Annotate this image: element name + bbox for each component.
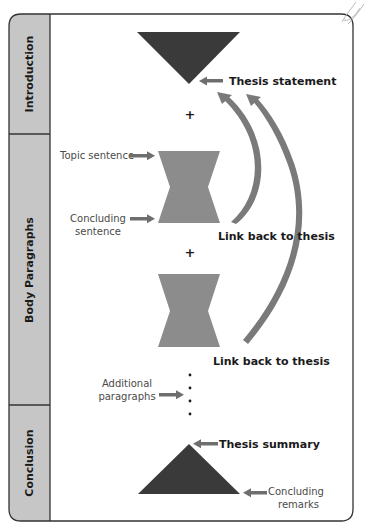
section-label-body-paragraphs: Body Paragraphs	[23, 217, 36, 323]
plus-sign-intro-body: +	[185, 107, 196, 122]
concluding-sentence-label-line2: sentence	[75, 226, 121, 237]
arrow-shaft	[249, 491, 267, 495]
introduction-inverted-triangle	[137, 32, 240, 84]
link-back-curve-1	[217, 92, 261, 224]
link-back-label-1: Link back to thesis	[218, 230, 335, 243]
arrow-shaft	[159, 393, 178, 397]
arrow-shaft	[205, 79, 223, 83]
body-paragraph-1-hourglass	[158, 151, 220, 223]
concluding-sentence-label-line1: Concluding	[70, 213, 126, 224]
essay-structure-diagram: Introduction Body Paragraphs Conclusion …	[0, 0, 370, 532]
ellipsis-dots	[189, 374, 192, 416]
dot	[189, 413, 192, 416]
dot	[189, 387, 192, 390]
arrow-left-icon	[243, 488, 251, 497]
thesis-summary-pointer	[193, 439, 218, 448]
additional-paragraphs-label-line1: Additional	[102, 378, 152, 389]
concluding-remarks-label-line2: remarks	[278, 499, 319, 510]
arrow-shaft	[199, 442, 218, 446]
conclusion-triangle	[138, 444, 240, 494]
dot	[189, 374, 192, 377]
arrow-right-icon	[176, 390, 184, 399]
thesis-summary-label: Thesis summary	[219, 438, 320, 451]
section-label-conclusion: Conclusion	[23, 429, 36, 496]
thesis-statement-pointer	[199, 77, 223, 86]
body-paragraph-2-hourglass	[158, 274, 220, 347]
arrow-right-icon	[147, 214, 155, 223]
additional-paragraphs-label-line2: paragraphs	[98, 391, 155, 402]
thesis-statement-label: Thesis statement	[229, 75, 336, 88]
handwriting-mark	[342, 2, 364, 24]
arrow-left-icon	[193, 439, 201, 448]
arrow-right-icon	[147, 151, 155, 160]
concluding-sentence-pointer	[130, 214, 155, 223]
arrow-shaft	[129, 154, 149, 158]
section-label-introduction: Introduction	[23, 36, 36, 113]
plus-sign-body-body: +	[185, 245, 196, 260]
dot	[189, 400, 192, 403]
concluding-remarks-pointer	[243, 488, 267, 497]
concluding-remarks-label-line1: Concluding	[268, 486, 324, 497]
link-back-label-2: Link back to thesis	[213, 355, 330, 368]
topic-sentence-label: Topic sentence	[59, 150, 134, 161]
arrow-left-icon	[199, 77, 207, 86]
arrow-shaft	[130, 217, 149, 221]
curve-body	[224, 96, 261, 224]
additional-paragraphs-pointer	[159, 390, 184, 399]
